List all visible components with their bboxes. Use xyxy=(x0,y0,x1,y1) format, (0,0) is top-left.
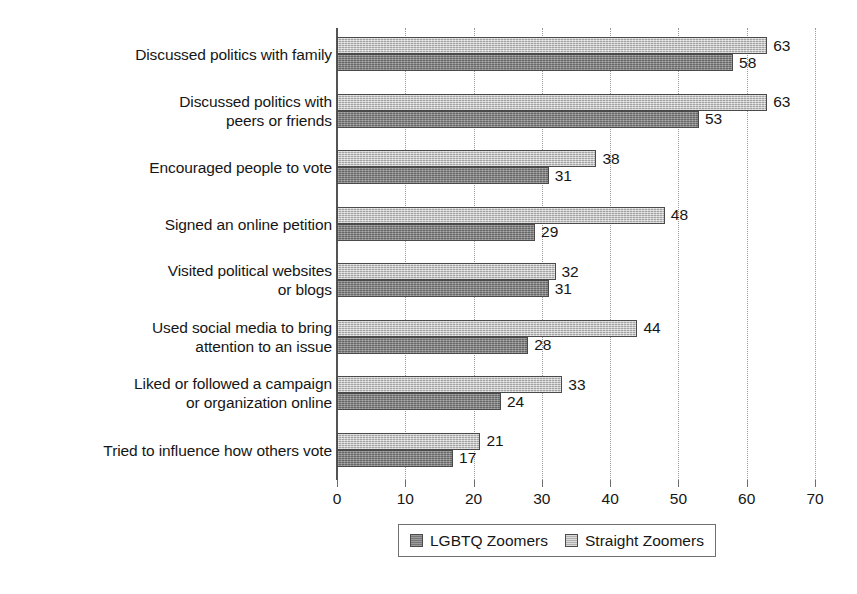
legend-label: Straight Zoomers xyxy=(585,532,704,550)
x-tick-40 xyxy=(610,480,611,487)
bar-straight xyxy=(337,376,562,393)
legend-item[interactable]: LGBTQ Zoomers xyxy=(410,532,548,550)
bar-lgbtq xyxy=(337,280,549,297)
bar-value-label: 31 xyxy=(555,167,572,185)
bar-value-label: 58 xyxy=(739,54,756,72)
legend-swatch-icon xyxy=(410,534,423,547)
bar-value-label: 53 xyxy=(705,110,722,128)
bar-value-label: 44 xyxy=(643,319,660,337)
x-tick-label-60: 60 xyxy=(738,490,755,508)
x-tick-label-20: 20 xyxy=(465,490,482,508)
x-tick-60 xyxy=(747,480,748,487)
bar-straight xyxy=(337,320,637,337)
bar-lgbtq xyxy=(337,337,528,354)
x-tick-label-10: 10 xyxy=(397,490,414,508)
x-tick-label-70: 70 xyxy=(806,490,823,508)
bar-value-label: 63 xyxy=(773,93,790,111)
bar-value-label: 63 xyxy=(773,37,790,55)
x-tick-70 xyxy=(815,480,816,487)
bar-value-label: 33 xyxy=(568,376,585,394)
x-tick-10 xyxy=(405,480,406,487)
x-tick-label-30: 30 xyxy=(533,490,550,508)
category-axis-labels: Discussed politics with familyDiscussed … xyxy=(0,0,332,470)
category-label: Signed an online petition xyxy=(0,214,332,233)
bar-straight xyxy=(337,263,556,280)
bar-value-label: 31 xyxy=(555,280,572,298)
category-label: Used social media to bring attention to … xyxy=(0,318,332,356)
gridline-70 xyxy=(815,28,817,480)
bar-value-label: 32 xyxy=(562,263,579,281)
bar-straight xyxy=(337,207,665,224)
plot-area: 63586353383148293231442833242117 0102030… xyxy=(337,28,815,480)
bar-straight xyxy=(337,37,767,54)
bar-straight xyxy=(337,433,480,450)
category-label: Encouraged people to vote xyxy=(0,158,332,177)
bar-value-label: 38 xyxy=(602,150,619,168)
legend-label: LGBTQ Zoomers xyxy=(430,532,548,550)
category-label: Discussed politics with peers or friends xyxy=(0,92,332,130)
bar-lgbtq xyxy=(337,450,453,467)
x-tick-0 xyxy=(337,480,338,487)
legend-item[interactable]: Straight Zoomers xyxy=(565,532,704,550)
x-tick-label-40: 40 xyxy=(602,490,619,508)
bar-chart: Discussed politics with familyDiscussed … xyxy=(0,0,857,594)
category-label: Liked or followed a campaign or organiza… xyxy=(0,374,332,412)
x-tick-label-50: 50 xyxy=(670,490,687,508)
bar-value-label: 24 xyxy=(507,393,524,411)
category-label: Tried to influence how others vote xyxy=(0,440,332,459)
bar-straight xyxy=(337,94,767,111)
x-tick-30 xyxy=(542,480,543,487)
category-label: Visited political websites or blogs xyxy=(0,261,332,299)
bar-value-label: 21 xyxy=(486,432,503,450)
bar-lgbtq xyxy=(337,167,549,184)
bar-lgbtq xyxy=(337,111,699,128)
bar-straight xyxy=(337,150,596,167)
bar-lgbtq xyxy=(337,393,501,410)
bar-value-label: 17 xyxy=(459,449,476,467)
bar-value-label: 28 xyxy=(534,336,551,354)
bar-lgbtq xyxy=(337,224,535,241)
x-tick-20 xyxy=(474,480,475,487)
category-label: Discussed politics with family xyxy=(0,45,332,64)
x-tick-50 xyxy=(678,480,679,487)
bar-lgbtq xyxy=(337,54,733,71)
legend-swatch-icon xyxy=(565,534,578,547)
chart-legend: LGBTQ ZoomersStraight Zoomers xyxy=(398,524,716,557)
bar-value-label: 29 xyxy=(541,223,558,241)
bar-value-label: 48 xyxy=(671,206,688,224)
x-tick-label-0: 0 xyxy=(333,490,342,508)
